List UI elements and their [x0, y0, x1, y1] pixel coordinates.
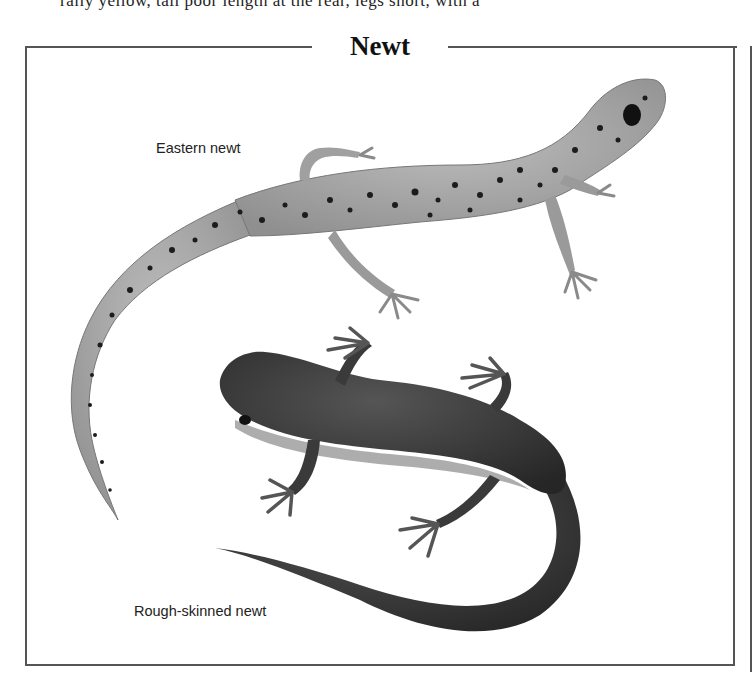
- eastern-newt-body: [235, 79, 666, 236]
- rough-skinned-newt-eye: [239, 415, 251, 425]
- rough-skinned-newt-body: [220, 352, 566, 494]
- rough-skinned-newt-tail: [215, 470, 580, 631]
- rough-skinned-newt: [215, 328, 580, 631]
- newt-illustration: [0, 0, 755, 697]
- rough-skinned-newt-label: Rough-skinned newt: [134, 603, 266, 619]
- eastern-newt-front-leg-right: [545, 195, 575, 275]
- rough-skinned-newt-hind-leg-lower: [436, 475, 500, 528]
- eastern-newt-tail: [71, 200, 250, 520]
- eastern-newt-label: Eastern newt: [156, 140, 241, 156]
- eastern-newt-eye: [623, 104, 641, 126]
- eastern-newt-hind-leg: [328, 230, 395, 298]
